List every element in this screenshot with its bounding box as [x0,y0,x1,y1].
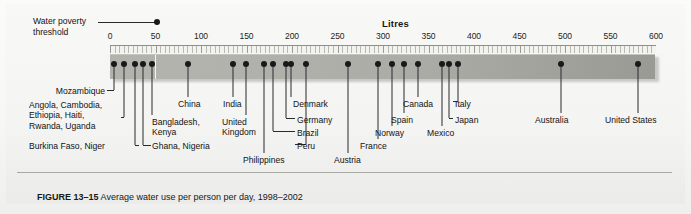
ruler-tick [424,46,425,53]
axis-tick-50: 50 [151,31,160,41]
ruler-tick [110,46,111,53]
ruler-tick [274,46,275,53]
water-poverty-threshold-line [155,55,156,79]
label-denmark: Denmark [293,99,328,109]
ruler-tick [183,46,184,53]
ruler-tick [397,46,398,53]
ruler-tick [306,46,307,53]
ruler-tick [319,46,320,53]
ruler-tick [338,46,339,53]
ruler-tick [565,46,566,53]
ruler-tick [247,46,248,53]
figure-number: FIGURE 13–15 [37,192,99,202]
leader-elbow [121,117,124,118]
ruler-tick [620,46,621,53]
ruler-tick [146,46,147,53]
leader-stem [232,67,233,97]
threshold-label-line2: threshold [33,27,68,38]
ruler-tick [406,46,407,53]
threshold-leader-line [98,22,155,23]
label-mozambique: Mozambique [56,86,105,96]
ruler-tick [560,46,561,53]
ruler-tick [601,46,602,53]
ruler-tick [378,46,379,53]
ruler-tick [492,46,493,53]
ruler-tick [260,46,261,53]
leader-stem [113,67,114,90]
ruler-tick [128,46,129,53]
ruler-tick [529,46,530,53]
ruler-tick [365,46,366,53]
ruler-tick [310,46,311,53]
leader-stem [245,67,246,115]
ruler-tick [629,46,630,53]
ruler-tick [215,46,216,53]
label-india: India [223,99,242,109]
ruler-tick [583,46,584,53]
ruler-tick [483,46,484,53]
ruler-tick [356,46,357,53]
ruler-tick [383,46,384,53]
ruler-tick [233,46,234,53]
ruler-tick [201,46,202,53]
ruler-tick [228,46,229,53]
ruler-tick [570,46,571,53]
leader-elbow [143,145,151,146]
ruler-tick [137,46,138,53]
ruler-tick [556,46,557,53]
ruler-tick [638,46,639,53]
ruler-tick [242,46,243,53]
leader-elbow [273,131,295,132]
label-germany: Germany [297,115,332,125]
leader-stem [142,67,143,145]
ruler-tick [474,46,475,53]
leader-stem [637,67,638,113]
threshold-label-line1: Water poverty [33,16,86,27]
ruler-tick [520,46,521,53]
caption-divider [17,172,672,173]
ruler-tick [351,46,352,53]
ruler-tick [488,46,489,53]
ruler-tick [479,46,480,53]
ruler-tick [447,46,448,53]
ruler-tick [633,46,634,53]
ruler-tick [269,46,270,53]
leader-elbow [286,118,295,119]
axis-tick-450: 450 [512,31,526,41]
ruler-tick [456,46,457,53]
label-ghana-nigeria: Ghana, Nigeria [152,141,210,151]
ruler-tick [315,46,316,53]
ruler-tick [278,46,279,53]
axis-tick-400: 400 [467,31,481,41]
ruler-tick [588,46,589,53]
ruler-tick [210,46,211,53]
leader-stem [151,67,152,115]
label-peru: Peru [297,141,315,151]
ruler-tick [451,46,452,53]
ruler-tick [501,46,502,53]
ruler-tick [579,46,580,53]
axis-tick-250: 250 [330,31,344,41]
leader-elbow [135,145,139,146]
ruler-tick [515,46,516,53]
water-use-bar [110,54,655,79]
ruler-tick [392,46,393,53]
ruler-tick [460,46,461,53]
axis-title-litres: Litres [382,18,409,29]
ruler-tick [219,46,220,53]
ruler-tick [542,46,543,53]
label-australia: Australia [535,115,568,125]
ruler-tick [251,46,252,53]
ruler-tick [142,46,143,53]
figure-container: Litres 050100150200250300350400450500550… [0,0,691,214]
ruler-tick [415,46,416,53]
ruler-tick [256,46,257,53]
label-mexico: Mexico [427,128,454,138]
axis-tick-100: 100 [194,31,208,41]
ruler-tick [401,46,402,53]
ruler-tick [283,46,284,53]
label-spain: Spain [391,115,413,125]
ruler-tick [124,46,125,53]
label-china: China [178,99,200,109]
ruler-tick [265,46,266,53]
